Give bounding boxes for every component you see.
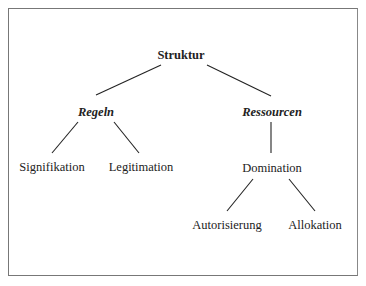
node-domination: Domination [242, 161, 302, 176]
edge-struktur-ressourcen [207, 65, 271, 96]
node-signifikation: Signifikation [19, 160, 84, 175]
connector-lines [0, 0, 366, 286]
edge-struktur-regeln [96, 65, 161, 95]
edge-domination-allokation [289, 179, 315, 211]
edge-domination-autorisierung [227, 179, 253, 211]
node-allokation: Allokation [288, 218, 341, 233]
node-regeln: Regeln [78, 105, 114, 120]
node-legitimation: Legitimation [109, 160, 174, 175]
edge-regeln-legitimation [114, 122, 139, 153]
node-autorisierung: Autorisierung [192, 218, 261, 233]
node-ressourcen: Ressourcen [242, 105, 302, 120]
node-struktur: Struktur [157, 48, 204, 63]
edge-regeln-signifikation [52, 122, 78, 153]
